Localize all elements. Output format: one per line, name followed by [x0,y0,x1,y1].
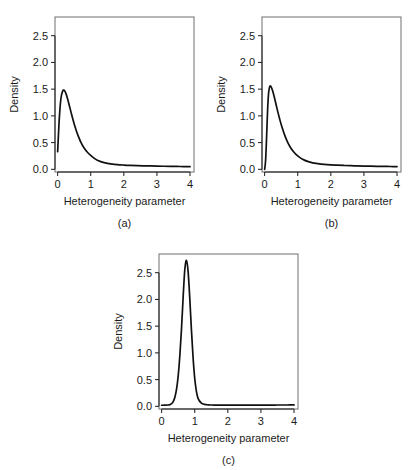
y-tick-label: 1.0 [240,110,255,122]
panel-c: 0.00.51.01.52.02.501234Heterogeneity par… [104,237,314,470]
y-tick-label: 2.0 [240,56,255,68]
y-tick-label: 1.5 [137,320,152,332]
panel-b: 0.00.51.01.52.02.501234Heterogeneity par… [207,0,417,233]
x-tick-label: 3 [361,178,367,190]
plot-b: 0.00.51.01.52.02.501234Heterogeneity par… [207,0,417,233]
y-tick-label: 0.5 [137,374,152,386]
x-tick-label: 0 [159,415,165,427]
y-tick-label: 0.0 [137,400,152,412]
x-tick-label: 4 [187,178,193,190]
x-axis-c: 01234 [159,409,298,427]
x-axis-title: Heterogeneity parameter [64,195,186,207]
y-tick-label: 1.5 [33,83,48,95]
y-axis-title: Density [112,313,124,350]
panel-label: (c) [222,454,235,466]
x-axis-b: 01234 [262,172,401,190]
y-tick-label: 2.5 [33,30,48,42]
x-tick-label: 1 [295,178,301,190]
y-axis-c: 0.00.51.01.52.02.5 [137,267,159,413]
y-tick-label: 0.5 [240,137,255,149]
plot-frame-b [262,17,401,172]
y-axis-title: Density [8,76,20,113]
y-axis-title: Density [215,76,227,113]
panel-a: 0.00.51.01.52.02.501234Heterogeneity par… [0,0,210,233]
density-curve-c [162,260,294,405]
x-tick-label: 3 [258,415,264,427]
x-axis-title: Heterogeneity parameter [168,432,290,444]
x-tick-label: 4 [394,178,400,190]
x-tick-label: 0 [55,178,61,190]
y-tick-label: 2.0 [137,293,152,305]
figure-container: 0.00.51.01.52.02.501234Heterogeneity par… [0,0,417,470]
y-tick-label: 1.5 [240,83,255,95]
panel-label: (b) [325,217,338,229]
y-tick-label: 2.5 [137,267,152,279]
x-tick-label: 4 [291,415,297,427]
plot-a: 0.00.51.01.52.02.501234Heterogeneity par… [0,0,210,233]
x-tick-label: 0 [262,178,268,190]
y-tick-label: 0.5 [33,137,48,149]
y-tick-label: 2.5 [240,30,255,42]
plot-frame-a [55,17,194,172]
y-tick-label: 1.0 [33,110,48,122]
x-tick-label: 1 [192,415,198,427]
density-curve-a [58,90,190,167]
x-tick-label: 2 [121,178,127,190]
panel-label: (a) [118,217,131,229]
y-tick-label: 0.0 [240,163,255,175]
x-tick-label: 2 [225,415,231,427]
x-axis-a: 01234 [55,172,194,190]
x-axis-title: Heterogeneity parameter [271,195,393,207]
x-tick-label: 2 [328,178,334,190]
plot-frame-c [159,254,298,409]
x-tick-label: 3 [154,178,160,190]
y-tick-label: 2.0 [33,56,48,68]
y-axis-a: 0.00.51.01.52.02.5 [33,30,55,176]
y-tick-label: 0.0 [33,163,48,175]
y-axis-b: 0.00.51.01.52.02.5 [240,30,262,176]
y-tick-label: 1.0 [137,347,152,359]
plot-c: 0.00.51.01.52.02.501234Heterogeneity par… [104,237,314,470]
x-tick-label: 1 [88,178,94,190]
density-curve-b [265,86,397,169]
